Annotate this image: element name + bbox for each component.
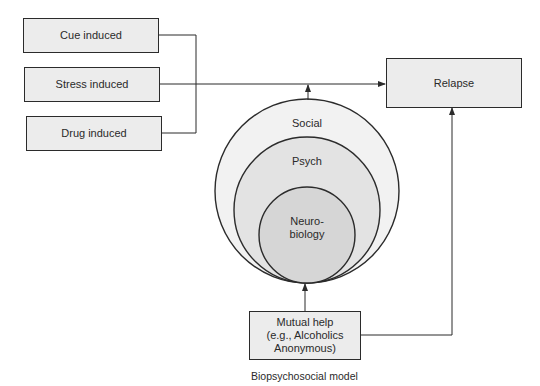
caption: Biopsychosocial model: [251, 370, 358, 382]
psych-label: Psych: [272, 155, 342, 168]
mutual-help-line2: (e.g., Alcoholics: [266, 329, 343, 342]
mutual-help-line1: Mutual help: [277, 316, 334, 329]
social-label: Social: [272, 117, 342, 130]
stress-induced-box: Stress induced: [24, 67, 160, 102]
relapse-label: Relapse: [434, 77, 474, 90]
drug-induced-box: Drug induced: [26, 116, 162, 151]
stress-induced-label: Stress induced: [56, 78, 129, 91]
neurobiology-line2: biology: [272, 228, 342, 241]
drug-induced-label: Drug induced: [61, 127, 126, 140]
mutual-help-box: Mutual help (e.g., Alcoholics Anonymous): [249, 311, 361, 360]
cue-induced-label: Cue induced: [60, 29, 122, 42]
neurobiology-line1: Neuro-: [272, 215, 342, 228]
mutual-help-line3: Anonymous): [274, 342, 336, 355]
neurobiology-label: Neuro- biology: [272, 215, 342, 241]
cue-induced-box: Cue induced: [23, 18, 159, 53]
relapse-box: Relapse: [386, 58, 522, 108]
